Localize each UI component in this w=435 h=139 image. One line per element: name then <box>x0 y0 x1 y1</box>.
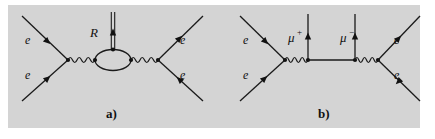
panel-a-loop-left-vertex <box>93 58 97 62</box>
panel-b-photon-left <box>285 58 308 63</box>
panel-a-label-r-boson: R <box>89 25 98 40</box>
panel-b-photon-right <box>355 58 378 63</box>
panel-b-label-muon-plus-charge: + <box>297 27 302 37</box>
panel-a-label-e-lower-left: e <box>25 68 31 82</box>
panel-b-label-e-lower-right: e <box>394 68 400 82</box>
panel-b-label-e-upper-right: e <box>394 33 400 47</box>
feynman-diagram-canvas: e e e e R a) <box>0 0 435 139</box>
panel-a-label-e-upper-right: e <box>180 33 186 47</box>
panel-a-label-e-lower-right: e <box>180 68 186 82</box>
panel-b-label-e-lower-left: e <box>243 68 249 82</box>
panel-b-label-muon-plus: μ <box>287 30 295 45</box>
panel-b-label-muon-minus: μ <box>339 30 347 45</box>
panel-a-arrow-incoming-upper-left <box>43 37 53 47</box>
panel-a-photon-left <box>68 58 95 63</box>
feynman-figure: e e e e R a) <box>0 0 435 139</box>
panel-a-fermion-loop <box>95 50 131 71</box>
panel-a-caption: a) <box>106 106 117 121</box>
panel-a-photon-right <box>131 58 158 63</box>
panel-a-label-e-upper-left: e <box>25 33 31 47</box>
panel-b-caption: b) <box>318 106 330 121</box>
panel-a-group: e e e e R a) <box>22 12 203 121</box>
panel-b-label-e-upper-left: e <box>243 33 249 47</box>
panel-b-group: e e e e μ + μ − b) <box>240 14 420 121</box>
panel-b-arrow-muon-plus <box>305 33 311 40</box>
panel-a-r-boson-vertex <box>111 47 115 51</box>
panel-b-label-muon-minus-charge: − <box>349 27 354 37</box>
